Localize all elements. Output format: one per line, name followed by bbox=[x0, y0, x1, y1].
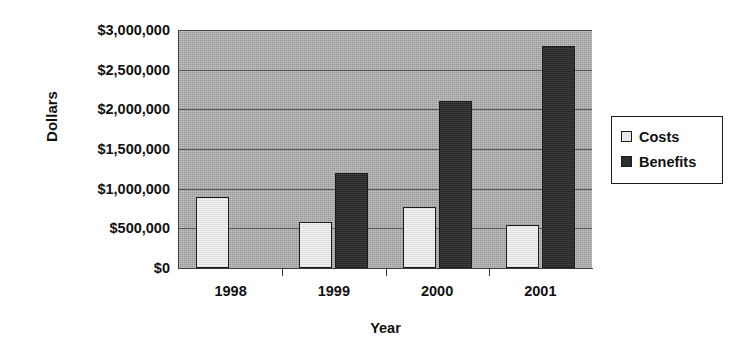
y-axis-tick-label: $2,000,000 bbox=[52, 101, 170, 117]
chart-legend: Costs Benefits bbox=[611, 116, 723, 184]
legend-item-benefits: Benefits bbox=[621, 149, 722, 174]
x-axis-tick-label: 2001 bbox=[490, 283, 590, 299]
legend-swatch-costs-icon bbox=[621, 131, 632, 142]
x-axis-tick-mark bbox=[489, 268, 490, 276]
x-axis-tick-mark bbox=[282, 268, 283, 276]
x-axis-tick-label: 1999 bbox=[284, 283, 384, 299]
legend-label-benefits: Benefits bbox=[639, 154, 696, 170]
gridline bbox=[179, 70, 592, 71]
plot-area bbox=[179, 30, 592, 268]
legend-swatch-benefits-icon bbox=[621, 156, 632, 167]
x-axis-tick-label: 2000 bbox=[387, 283, 487, 299]
bar-costs-1999 bbox=[299, 222, 332, 268]
y-axis-tick-labels: $0$500,000$1,000,000$1,500,000$2,000,000… bbox=[52, 0, 170, 357]
y-axis-tick-label: $500,000 bbox=[52, 220, 170, 236]
gridline bbox=[179, 109, 592, 110]
gridline bbox=[179, 149, 592, 150]
x-axis-tick-label: 1998 bbox=[181, 283, 281, 299]
gridline bbox=[179, 189, 592, 190]
bar-benefits-1999 bbox=[335, 173, 368, 268]
bar-costs-2001 bbox=[506, 225, 539, 268]
bar-benefits-2000 bbox=[439, 101, 472, 268]
y-axis-tick-label: $2,500,000 bbox=[52, 62, 170, 78]
y-axis-tick-label: $3,000,000 bbox=[52, 22, 170, 38]
x-axis-title: Year bbox=[179, 320, 592, 336]
legend-item-costs: Costs bbox=[621, 124, 722, 149]
y-axis-line bbox=[178, 30, 179, 269]
bar-benefits-2001 bbox=[542, 46, 575, 268]
y-axis-tick-label: $1,500,000 bbox=[52, 141, 170, 157]
y-axis-tick-label: $0 bbox=[52, 260, 170, 276]
bar-costs-1998 bbox=[196, 197, 229, 268]
y-axis-tick-label: $1,000,000 bbox=[52, 181, 170, 197]
bar-chart: Dollars $0$500,000$1,000,000$1,500,000$2… bbox=[0, 0, 750, 357]
x-axis-tick-mark bbox=[386, 268, 387, 276]
gridline bbox=[179, 30, 592, 31]
legend-label-costs: Costs bbox=[639, 129, 679, 145]
bar-costs-2000 bbox=[403, 207, 436, 268]
